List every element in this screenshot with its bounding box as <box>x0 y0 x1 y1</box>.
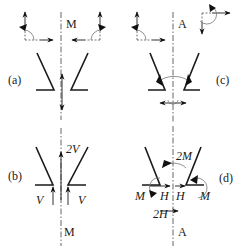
force-label-2v: 2V <box>66 142 81 156</box>
panel-label-b: (b) <box>8 169 22 183</box>
panel-label-c: (c) <box>216 73 229 87</box>
right-load-symbols-a <box>72 12 106 40</box>
force-label-v-right: V <box>78 193 87 207</box>
axis-label-a: M <box>66 17 77 31</box>
left-member-b <box>35 147 53 185</box>
structural-symmetry-diagram: M (a) A (c) <box>0 0 236 248</box>
panel-label-d: (d) <box>219 171 233 185</box>
left-member-d <box>142 147 160 185</box>
axis-label-c: A <box>178 17 187 31</box>
panel-d: A (d) 2M H H 2H M M <box>134 126 233 246</box>
moment-arrowhead-2m <box>162 160 172 168</box>
moment-arrowhead-left-c <box>156 74 163 86</box>
moment-arrowhead-right-c <box>185 74 192 86</box>
panel-b: M (b) 2V V V <box>8 128 88 246</box>
panel-a: M (a) <box>8 12 106 120</box>
moment-label-2m: 2M <box>176 149 193 163</box>
moment-arrowhead-m-left <box>149 190 157 198</box>
axis-label-b: M <box>64 225 75 239</box>
axis-label-d: A <box>178 225 187 239</box>
moment-arrowhead-m-right <box>190 175 198 184</box>
force-label-v-left: V <box>36 193 45 207</box>
panel-c: A (c) <box>131 4 230 122</box>
left-load-symbols-a <box>19 12 53 40</box>
force-label-2h: 2H <box>153 207 169 221</box>
moment-label-m-left: M <box>134 189 146 203</box>
force-label-h-right: H <box>175 189 186 203</box>
force-label-h-left: H <box>159 189 170 203</box>
panel-label-a: (a) <box>8 73 21 87</box>
moment-arc-c <box>158 76 190 82</box>
left-member-a <box>36 53 54 90</box>
right-load-symbols-c <box>200 4 230 34</box>
right-member-a <box>71 53 88 90</box>
left-load-symbols-c <box>131 12 165 40</box>
moment-label-m-right: M <box>199 189 211 203</box>
